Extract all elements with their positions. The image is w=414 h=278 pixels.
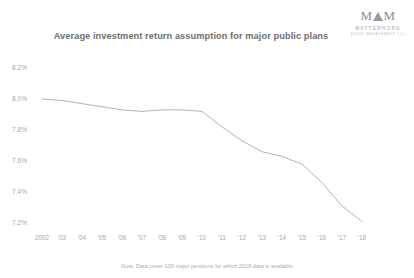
plot-area xyxy=(42,68,362,223)
data-series-line xyxy=(42,99,362,221)
x-tick-label: '12 xyxy=(238,233,246,242)
brand-mark-left-letter: M xyxy=(360,8,372,23)
brand-tagline: ASSET MANAGEMENT LLC xyxy=(345,32,411,37)
x-tick-label: '10 xyxy=(198,233,206,242)
x-tick-label: '18 xyxy=(358,233,366,242)
x-tick-label: '15 xyxy=(298,233,306,242)
y-tick-label: 8.2% xyxy=(12,64,40,72)
x-tick-label: '14 xyxy=(278,233,286,242)
x-tick-label: '05 xyxy=(98,233,106,242)
x-tick-label: '07 xyxy=(138,233,146,242)
matterhorn-wordmark-icon: MM xyxy=(345,8,411,24)
y-tick-label: 7.2% xyxy=(12,219,40,227)
chart-card: Average investment return assumption for… xyxy=(0,0,414,278)
brand-logo: MM MATTERHORN ASSET MANAGEMENT LLC xyxy=(345,8,411,44)
x-axis: 2002'03'04'05'06'07'08'09'10'11'12'13'14… xyxy=(42,233,362,245)
x-tick-label: '16 xyxy=(318,233,326,242)
x-tick-label: '03 xyxy=(58,233,66,242)
x-tick-label: '08 xyxy=(158,233,166,242)
x-tick-label: '11 xyxy=(218,233,226,242)
x-tick-label: '04 xyxy=(78,233,86,242)
y-tick-label: 7.6% xyxy=(12,157,40,165)
y-tick-label: 7.4% xyxy=(12,188,40,196)
x-tick-label: '13 xyxy=(258,233,266,242)
x-tick-label: '17 xyxy=(338,233,346,242)
brand-mark-right-letter: M xyxy=(384,8,396,23)
mountain-peak-icon xyxy=(373,12,383,21)
y-tick-label: 7.8% xyxy=(12,126,40,134)
x-tick-label: '06 xyxy=(118,233,126,242)
x-tick-label: '09 xyxy=(178,233,186,242)
x-tick-label: 2002 xyxy=(35,233,49,242)
page-title: Average investment return assumption for… xyxy=(52,30,330,42)
y-tick-label: 8.0% xyxy=(12,95,40,103)
line-chart-svg xyxy=(42,68,362,223)
chart-footnote: Note: Data cover 109 major pensions for … xyxy=(0,262,414,270)
